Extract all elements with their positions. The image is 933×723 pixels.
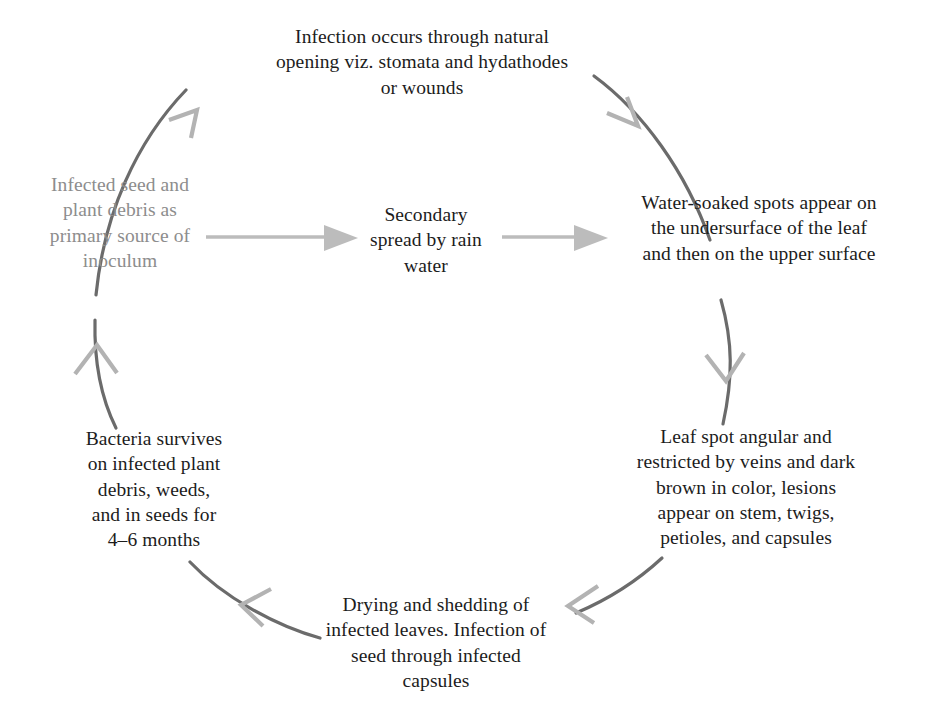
cycle-node-water-soaked-spots: Water-soaked spots appear on the undersu… [600, 190, 918, 266]
cycle-node-bacteria-survives: Bacteria survives on infected plant debr… [46, 426, 262, 553]
cycle-node-infection: Infection occurs through natural opening… [236, 24, 608, 100]
cycle-node-secondary-spread: Secondary spread by rain water [356, 202, 496, 278]
arrowhead-right-icon [324, 225, 358, 251]
arrowhead-down-icon [706, 353, 744, 381]
arc-right-to-bottomright [706, 300, 744, 424]
cycle-node-primary-inoculum: Infected seed and plant debris as primar… [20, 172, 220, 273]
cycle-node-drying-shedding: Drying and shedding of infected leaves. … [294, 592, 578, 693]
arc-bottomright-to-bottom [568, 558, 662, 623]
arrowhead-up-right-icon [169, 110, 197, 138]
arrow-left-to-center [206, 225, 358, 251]
arc-bottomleft-to-left [75, 320, 117, 428]
arrow-center-to-right [502, 225, 608, 251]
disease-cycle-diagram: .arc-path { fill: none; stroke: #6b6b6b;… [0, 0, 933, 723]
arrowhead-left-icon [241, 589, 271, 626]
cycle-node-leaf-spot-angular: Leaf spot angular and restricted by vein… [596, 424, 896, 551]
